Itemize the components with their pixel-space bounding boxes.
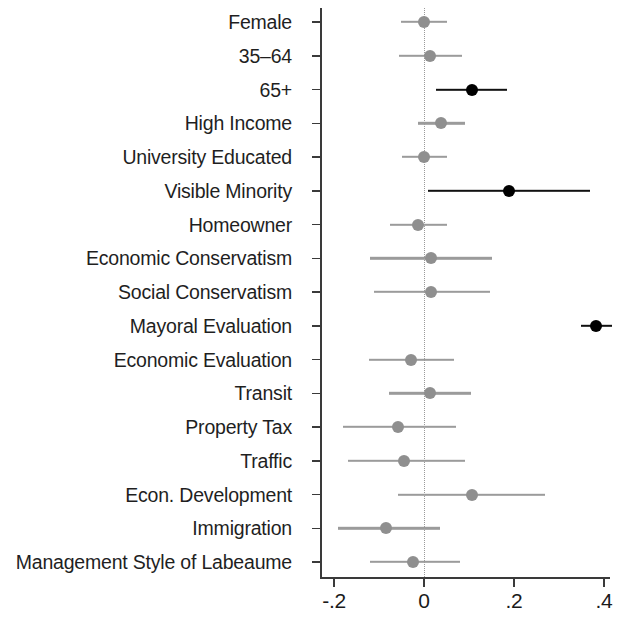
x-axis-tick-label: .2	[506, 589, 523, 613]
x-axis-tick	[423, 578, 425, 587]
category-label: Female	[228, 11, 292, 34]
category-label: 65+	[260, 78, 292, 101]
x-axis-tick-label: -.2	[322, 589, 346, 613]
y-axis-tick	[312, 325, 321, 327]
y-axis-tick	[312, 224, 321, 226]
point-estimate-marker	[424, 50, 436, 62]
category-label: Immigration	[192, 517, 292, 540]
category-label: Econ. Development	[125, 483, 292, 506]
x-axis-tick-label: .4	[596, 589, 613, 613]
category-label: Homeowner	[189, 213, 292, 236]
x-axis-tick	[513, 578, 515, 587]
x-axis-tick	[603, 578, 605, 587]
category-label: Property Tax	[185, 416, 292, 439]
category-label: Traffic	[240, 449, 292, 472]
plot-area: Female35–6465+High IncomeUniversity Educ…	[0, 0, 618, 618]
category-label: 35–64	[239, 44, 292, 67]
y-axis-tick	[312, 291, 321, 293]
point-estimate-marker	[407, 556, 419, 568]
point-estimate-marker	[466, 489, 478, 501]
y-axis-tick	[312, 359, 321, 361]
category-label: Economic Conservatism	[86, 247, 292, 270]
point-estimate-marker	[418, 16, 430, 28]
category-label: University Educated	[122, 146, 292, 169]
category-label: Social Conservatism	[118, 281, 292, 304]
point-estimate-marker	[380, 522, 392, 534]
point-estimate-marker	[503, 185, 515, 197]
point-estimate-marker	[392, 421, 404, 433]
point-estimate-marker	[590, 320, 602, 332]
y-axis-tick	[312, 123, 321, 125]
point-estimate-marker	[398, 455, 410, 467]
y-axis-tick	[312, 156, 321, 158]
y-axis-tick	[312, 55, 321, 57]
coefficient-plot-figure: Female35–6465+High IncomeUniversity Educ…	[0, 0, 618, 618]
y-axis-tick	[312, 258, 321, 260]
point-estimate-marker	[425, 286, 437, 298]
category-label: Transit	[235, 382, 292, 405]
point-estimate-marker	[418, 151, 430, 163]
y-axis-tick	[312, 426, 321, 428]
point-estimate-marker	[424, 387, 436, 399]
y-axis-line	[320, 8, 322, 578]
y-axis-tick	[312, 21, 321, 23]
category-label: High Income	[185, 112, 292, 135]
category-label: Mayoral Evaluation	[130, 314, 292, 337]
y-axis-tick	[312, 561, 321, 563]
category-label: Management Style of Labeaume	[16, 551, 292, 574]
y-axis-tick	[312, 89, 321, 91]
category-label: Economic Evaluation	[114, 348, 292, 371]
x-axis-line	[320, 577, 610, 579]
y-axis-tick	[312, 528, 321, 530]
x-axis-tick-label: 0	[418, 589, 429, 613]
y-axis-tick	[312, 190, 321, 192]
y-axis-tick	[312, 460, 321, 462]
category-label: Visible Minority	[164, 179, 292, 202]
x-axis-tick	[333, 578, 335, 587]
point-estimate-marker	[412, 219, 424, 231]
y-axis-tick	[312, 494, 321, 496]
point-estimate-marker	[405, 354, 417, 366]
point-estimate-marker	[435, 117, 447, 129]
point-estimate-marker	[425, 252, 437, 264]
point-estimate-marker	[466, 84, 478, 96]
y-axis-tick	[312, 393, 321, 395]
